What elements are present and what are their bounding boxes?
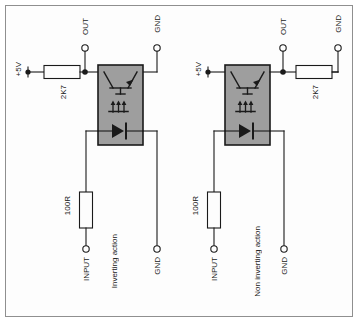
right-gnd-bottom-terminal xyxy=(281,246,287,252)
right-gnd-bottom-label: GND xyxy=(280,257,289,275)
left-gnd-top-label: GND xyxy=(153,15,162,33)
right-out-junction xyxy=(280,69,286,75)
left-input-terminal xyxy=(83,246,89,252)
right-2k7-label: 2K7 xyxy=(311,85,320,99)
right-gnd-top-terminal xyxy=(335,45,341,51)
left-100r-label: 100R xyxy=(63,196,72,215)
left-supply-label: +5V xyxy=(14,62,23,76)
right-out-label: OUT xyxy=(279,18,288,35)
left-2k7-label: 2K7 xyxy=(59,85,68,99)
left-gnd-top-terminal xyxy=(154,45,160,51)
left-caption: Inverting action xyxy=(110,234,119,288)
left-input-label: INPUT xyxy=(82,257,91,281)
left-out-label: OUT xyxy=(81,18,90,35)
right-100r-resistor xyxy=(208,192,221,228)
right-gnd-top-label: GND xyxy=(334,15,343,33)
left-100r-resistor xyxy=(80,192,93,228)
right-input-label: INPUT xyxy=(210,257,219,281)
right-2k7-resistor xyxy=(296,66,332,79)
right-out-terminal xyxy=(280,45,286,51)
left-gnd-bottom-terminal xyxy=(154,246,160,252)
left-out-terminal xyxy=(82,45,88,51)
right-100r-label: 100R xyxy=(191,196,200,215)
circuit-canvas xyxy=(0,0,360,324)
right-supply-label: +5V xyxy=(194,62,203,76)
left-out-junction xyxy=(82,69,88,75)
diagram-page: OUT GND +5V 2K7 100R INPUT Inverting act… xyxy=(0,0,360,324)
right-caption: Non inverting action xyxy=(253,226,262,297)
left-2k7-resistor xyxy=(44,66,80,79)
right-input-terminal xyxy=(211,246,217,252)
left-gnd-bottom-label: GND xyxy=(153,257,162,275)
